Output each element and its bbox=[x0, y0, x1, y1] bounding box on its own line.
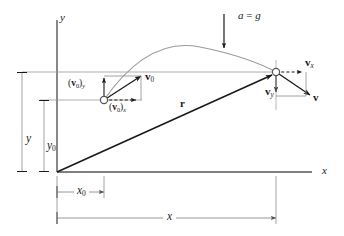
y-axis-label: y bbox=[60, 12, 65, 23]
v0-label-sub: 0 bbox=[151, 76, 155, 84]
initial-position-marker bbox=[100, 96, 107, 103]
position-vector-arrow bbox=[57, 75, 272, 172]
dimension-x0-label: x0 bbox=[74, 185, 89, 198]
figure-canvas bbox=[0, 0, 344, 236]
dimension-y-label-v: y bbox=[26, 132, 31, 144]
dimension-x-label-v: x bbox=[167, 210, 172, 222]
dimension-y0 bbox=[39, 100, 49, 172]
vy-label-sub: y bbox=[271, 91, 274, 99]
initial-velocity-group bbox=[100, 76, 141, 104]
v-label: v bbox=[313, 92, 319, 103]
dimension-y bbox=[17, 72, 27, 172]
v0y-label: (v0)y bbox=[68, 79, 85, 89]
v0x-label: (v0)x bbox=[109, 103, 126, 113]
vx-label: vx bbox=[305, 57, 314, 70]
v0-label: v0 bbox=[145, 71, 154, 84]
dimension-y0-label: y0 bbox=[47, 140, 56, 153]
projectile-motion-figure: y x a = g v0 (v0)y (v0)x r vx vy v y y0 … bbox=[0, 0, 344, 236]
r-label-v: r bbox=[180, 97, 185, 109]
vy-label: vy bbox=[265, 86, 274, 99]
acceleration-g: g bbox=[255, 9, 261, 21]
position-vector-label: r bbox=[180, 98, 185, 109]
acceleration-label: a = g bbox=[238, 10, 261, 21]
final-position-marker bbox=[272, 68, 279, 75]
dimension-x0-label-sub: 0 bbox=[82, 189, 86, 198]
v-label-v: v bbox=[313, 91, 319, 103]
x-axis-label: x bbox=[322, 165, 327, 176]
dimension-x-label: x bbox=[163, 211, 176, 223]
v0x-sub-outer: x bbox=[123, 106, 126, 113]
v0-arrow bbox=[104, 76, 141, 100]
vx-label-sub: x bbox=[311, 62, 314, 70]
dimension-y-label: y bbox=[26, 133, 31, 145]
dimension-y0-label-sub: 0 bbox=[52, 144, 56, 153]
v-arrow bbox=[276, 72, 310, 95]
v0y-sub-outer: y bbox=[82, 82, 85, 89]
trajectory-curve bbox=[104, 46, 278, 100]
